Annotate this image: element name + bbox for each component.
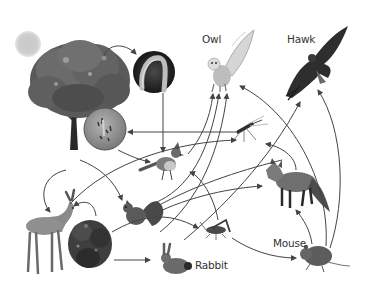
fox-icon: [266, 158, 330, 212]
rabbit-icon: [161, 244, 192, 274]
mouse-label: Mouse: [273, 237, 306, 249]
hawk-label: Hawk: [287, 33, 315, 45]
arrow-squirrel-fox: [154, 186, 262, 214]
arrow-mouse-owl: [240, 86, 326, 246]
owl-label: Owl: [202, 33, 221, 45]
arrow-tree-squirrel: [80, 160, 122, 200]
fungus-icon: [84, 108, 126, 150]
grasshopper-icon: [200, 220, 230, 240]
arrow-tree-deer: [44, 170, 66, 212]
caterpillar-icon: [133, 51, 175, 93]
arrow-squirrel-owl: [152, 94, 219, 204]
squirrel-icon: [123, 200, 163, 226]
arrow-mouse-hawk: [318, 90, 340, 248]
deer-icon: [26, 190, 74, 274]
arrow-shrub-deer: [74, 202, 96, 216]
mosquito-icon: [234, 116, 268, 142]
arrow-deer-mosquito: [70, 140, 236, 204]
food-web-diagram: Owl Hawk Rabbit Mouse: [0, 0, 366, 288]
arrow-fungus-bluejay: [118, 150, 150, 162]
shrub-icon: [68, 220, 112, 268]
mouse-icon: [300, 245, 350, 272]
rabbit-label: Rabbit: [195, 259, 228, 271]
sun-icon: [15, 31, 41, 57]
